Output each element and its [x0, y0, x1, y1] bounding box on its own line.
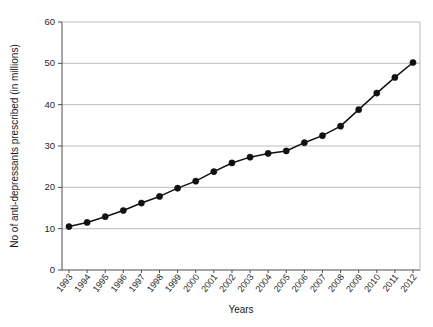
data-point [175, 185, 181, 191]
y-tick-label: 10 [44, 223, 55, 234]
data-point [319, 133, 325, 139]
data-point [211, 169, 217, 175]
y-axis-title: No of anti-depressants prescribed (in mi… [9, 44, 20, 247]
data-point [301, 140, 307, 146]
y-tick-label: 30 [44, 140, 55, 151]
data-point [193, 178, 199, 184]
data-point [283, 148, 289, 154]
data-point [120, 207, 126, 213]
chart-canvas: 0102030405060 19931994199519961997199819… [0, 0, 433, 327]
y-tick-label: 0 [50, 264, 55, 275]
data-point [102, 214, 108, 220]
y-tick-label: 40 [44, 99, 55, 110]
data-point [84, 219, 90, 225]
data-point [229, 160, 235, 166]
data-point [374, 90, 380, 96]
y-tick-label: 20 [44, 181, 55, 192]
data-point [356, 107, 362, 113]
x-axis-title: Years [228, 304, 253, 315]
data-point [410, 59, 416, 65]
data-point [337, 123, 343, 129]
data-point [265, 150, 271, 156]
data-point [247, 154, 253, 160]
data-point [392, 74, 398, 80]
y-tick-label: 60 [44, 16, 55, 27]
data-point [138, 200, 144, 206]
line-chart: 0102030405060 19931994199519961997199819… [0, 0, 433, 327]
data-point [66, 224, 72, 230]
data-point [156, 193, 162, 199]
y-tick-label: 50 [44, 57, 55, 68]
